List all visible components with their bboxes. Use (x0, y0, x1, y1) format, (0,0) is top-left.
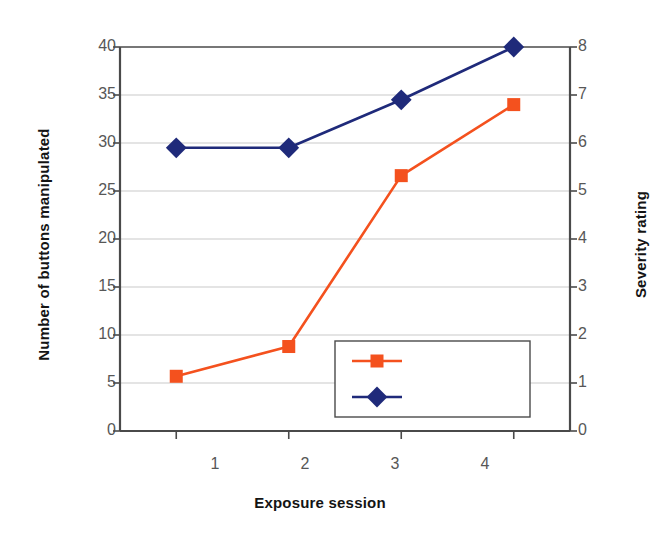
series-marker-square (282, 340, 295, 353)
series-marker-diamond (166, 137, 187, 158)
series-buttons (170, 98, 521, 383)
plot-area (0, 0, 668, 539)
chart-legend (335, 341, 530, 417)
chart-container: Number of buttons manipulated Severity r… (0, 0, 668, 539)
data-series-layer (166, 37, 524, 383)
series-marker-diamond (278, 137, 299, 158)
series-marker-diamond (391, 89, 412, 110)
legend-box (335, 341, 530, 417)
series-marker-square (170, 370, 183, 383)
series-marker-square (395, 169, 408, 182)
series-marker-diamond (503, 37, 524, 58)
series-line (176, 105, 514, 377)
series-marker-square (507, 98, 520, 111)
series-severity (166, 37, 524, 159)
series-line (176, 47, 514, 148)
series-marker-square (371, 355, 384, 368)
gridlines (120, 47, 570, 383)
